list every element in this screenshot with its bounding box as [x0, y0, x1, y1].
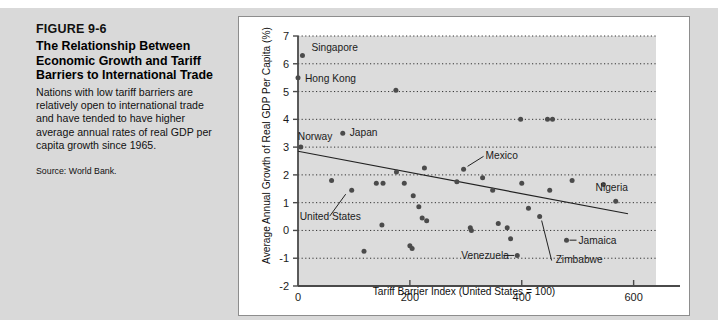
y-tick-label: 7 — [283, 30, 289, 42]
data-point[interactable] — [349, 188, 354, 193]
data-point[interactable] — [411, 193, 416, 198]
data-point[interactable] — [508, 236, 513, 241]
annotation-label: Japan — [350, 127, 378, 138]
data-point[interactable] — [547, 188, 552, 193]
scatter-plot: -2-1012345670200400600SingaporeHong Kong… — [238, 16, 690, 316]
data-point[interactable] — [613, 199, 618, 204]
data-point[interactable] — [296, 75, 301, 80]
x-axis-title: Tariff Barrier Index (United States = 10… — [238, 286, 690, 297]
annotation-label: Zimbabwe — [556, 254, 603, 265]
data-point[interactable] — [469, 228, 474, 233]
y-tick-label: 3 — [283, 141, 289, 153]
annotation-label: Singapore — [311, 42, 358, 53]
figure-source: Source: World Bank. — [36, 166, 216, 176]
data-point[interactable] — [526, 206, 531, 211]
data-point[interactable] — [518, 117, 523, 122]
annotation-leader-line — [468, 156, 484, 166]
trend-line — [298, 151, 628, 214]
data-point[interactable] — [410, 246, 415, 251]
data-point[interactable] — [424, 218, 429, 223]
annotation-label: Venezuela — [461, 250, 509, 261]
data-point[interactable] — [402, 181, 407, 186]
data-point[interactable] — [454, 179, 459, 184]
figure-description: Nations with low tariff barriers are rel… — [36, 86, 216, 153]
annotation-label: Norway — [298, 131, 333, 142]
y-tick-label: 6 — [283, 58, 289, 70]
y-tick-label: -1 — [279, 252, 289, 264]
annotation-label: Hong Kong — [305, 73, 356, 84]
data-point[interactable] — [300, 53, 305, 58]
data-point[interactable] — [298, 145, 303, 150]
annotation-label: Nigeria — [596, 182, 629, 193]
y-tick-label: 5 — [283, 86, 289, 98]
data-point[interactable] — [422, 165, 427, 170]
chart-area: -2-1012345670200400600SingaporeHong Kong… — [238, 16, 690, 316]
data-point[interactable] — [381, 181, 386, 186]
data-point[interactable] — [394, 170, 399, 175]
data-point[interactable] — [505, 225, 510, 230]
data-point[interactable] — [519, 181, 524, 186]
data-point[interactable] — [461, 167, 466, 172]
y-tick-label: 1 — [283, 197, 289, 209]
data-point[interactable] — [329, 178, 334, 183]
annotation-label: Jamaica — [579, 235, 617, 246]
figure-caption: FIGURE 9-6 The Relationship Between Econ… — [36, 22, 216, 176]
y-tick-label: 4 — [283, 113, 289, 125]
data-point[interactable] — [420, 215, 425, 220]
data-point[interactable] — [515, 253, 520, 258]
y-axis-title: Average Annual Growth of Real GDP Per Ca… — [261, 21, 272, 271]
data-point[interactable] — [416, 204, 421, 209]
y-tick-label: 0 — [283, 224, 289, 236]
data-point[interactable] — [379, 222, 384, 227]
data-point[interactable] — [490, 188, 495, 193]
data-point[interactable] — [340, 131, 345, 136]
annotation-label: Mexico — [486, 150, 519, 161]
figure-title: The Relationship Between Economic Growth… — [36, 39, 216, 83]
data-point[interactable] — [496, 221, 501, 226]
data-point[interactable] — [570, 178, 575, 183]
y-tick-label: 2 — [283, 169, 289, 181]
data-point[interactable] — [480, 175, 485, 180]
data-point[interactable] — [362, 249, 367, 254]
data-point[interactable] — [393, 88, 398, 93]
data-point[interactable] — [545, 117, 550, 122]
figure-container: FIGURE 9-6 The Relationship Between Econ… — [0, 0, 718, 336]
data-point[interactable] — [374, 181, 379, 186]
annotation-label: United States — [300, 211, 361, 222]
annotation-leader-line — [542, 221, 552, 261]
data-point[interactable] — [537, 214, 542, 219]
data-point[interactable] — [564, 238, 569, 243]
data-point[interactable] — [550, 117, 555, 122]
figure-number: FIGURE 9-6 — [36, 22, 216, 36]
